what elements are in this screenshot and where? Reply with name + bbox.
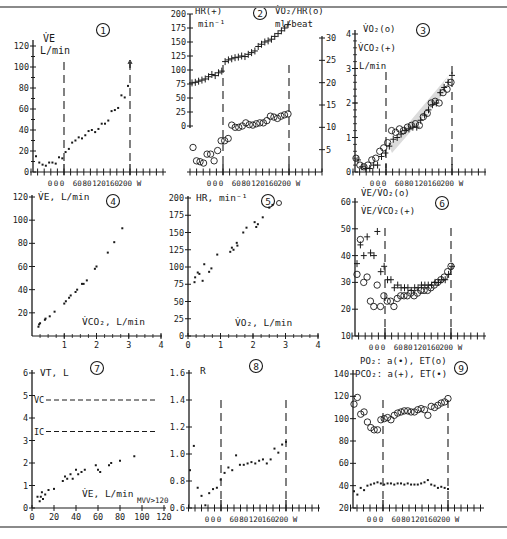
y-tick-label: 100 [13,215,28,225]
panel-5-hr-vo2: 025507510012515017520001234HR, min⁻¹V̇O₂… [169,192,321,350]
x-tick-label: 0 [29,512,34,522]
y-tick-label: 50 [174,297,184,307]
y-axis-unit: L/min [359,61,386,71]
x-tick-label: 120 [92,179,106,188]
x-tick-label: 120 [411,515,425,524]
y-tick-label: 80 [18,238,28,248]
x-tick-label: 0 [185,340,190,350]
panel-number: 7 [94,363,100,374]
y-tick-label-right: 15 [326,100,336,110]
y-tick-label: 75 [174,279,184,289]
y-tick-label: 1.6 [170,368,185,378]
x-tick-label: 1 [218,340,223,350]
panel-number: 2 [257,8,263,19]
x-tick-label: 200 [275,515,289,524]
y-tick-label: 20 [18,308,28,318]
x-tick-label: 0 [367,515,372,524]
x-tick-label: 120 [249,515,263,524]
y-tick-label: 125 [169,245,184,255]
x-tick-label: W [458,343,463,352]
y-tick-label: 10 [341,331,351,341]
panel-8-respiratory-exchange-ratio: 0.60.81.01.21.41.60006080120160200WR8 [170,360,320,525]
x-tick-label: 60 [229,515,239,524]
x-tick-label: 160 [264,179,278,188]
y-tick-label: 4 [346,29,351,39]
x-tick-label: 2 [250,340,255,350]
y-tick-label-right: 5 [326,145,331,155]
y-axis-unit-right: ml/beat [275,19,313,29]
panel-number: 9 [458,363,464,374]
x-tick-label: 0 [370,179,375,188]
panel-number: 6 [439,198,445,209]
y-tick-label: 120 [334,391,349,401]
y-tick-label: 75 [176,79,186,89]
x-tick-label: 60 [232,179,242,188]
y-axis-title: V̇E, L/min [38,191,89,202]
y-tick-label: 60 [341,197,351,207]
x-tick-label: 200 [441,179,455,188]
y-tick-label: 60 [18,262,28,272]
y-tick-label: 2 [346,98,351,108]
x-tick-label: 160 [105,179,119,188]
mvv-annotation: MVV>120 [137,496,169,505]
x-tick-label: W [137,179,142,188]
y-tick-label: 3 [23,436,28,446]
x-tick-label: 0 [211,515,216,524]
x-tick-label: 20 [49,512,59,522]
x-tick-label: 0 [379,515,384,524]
x-tick-label: 80 [239,515,249,524]
x-tick-label: 80 [115,512,125,522]
x-tick-label: 120 [156,512,171,522]
y-tick-label: 50 [176,93,186,103]
x-tick-label: 0 [213,179,218,188]
x-tick-label: 60 [73,179,83,188]
y-tick-label-right: 30 [326,33,336,43]
y-tick-label: 50 [341,224,351,234]
x-tick-label: 0 [381,343,386,352]
x-tick-label: 0 [205,515,210,524]
panel-number: 4 [110,196,116,207]
y-tick-label: 20 [19,146,29,156]
y-tick-label: 2 [23,458,28,468]
bottom-rule [0,526,507,528]
y-tick-label: 125 [171,51,186,61]
x-tick-label: 200 [437,515,451,524]
x-tick-label: 0 [60,179,65,188]
y-tick-label: 100 [171,65,186,75]
figure: 0204060801001200006080120160200WV̇EL/min… [0,0,507,539]
y-tick-label: 1 [346,133,351,143]
x-tick-label: 200 [278,179,292,188]
y-axis-title: V̇E [43,32,55,44]
y-tick-label: 200 [171,9,186,19]
y-tick-label: 1.0 [170,449,185,459]
x-tick-label: 60 [394,343,404,352]
x-tick-label: 0 [373,515,378,524]
x-tick-label: 0 [382,179,387,188]
y-tick-label: 100 [334,414,349,424]
x-axis-title: V̇O₂, L/min [235,317,292,328]
y-tick-label: 120 [13,192,28,202]
x-axis-title: V̇E, L/min [82,488,133,499]
y-tick-label: 5 [23,391,28,401]
y-tick-label: 175 [169,210,184,220]
y-tick-label: 4 [23,413,28,423]
y-tick-label: 200 [169,193,184,203]
panel-6-ventilatory-equivalents: 1020304050600006080120160200WV̇E/V̇O₂(o)… [341,187,486,352]
y-tick-label: 175 [171,23,186,33]
y-axis-title-1: PO₂: a(•), ET(o) [360,356,447,366]
x-tick-label: 0 [369,343,374,352]
x-tick-label: 1 [62,340,67,350]
x-tick-label: 200 [440,343,454,352]
y-tick-label: 60 [19,104,29,114]
x-tick-label: 0 [54,179,59,188]
x-tick-label: 40 [71,512,81,522]
x-tick-label: 3 [283,340,288,350]
y-axis-title-1: V̇E/V̇O₂(o) [361,187,410,198]
y-tick-label: 20 [339,503,349,513]
x-tick-label: 4 [315,340,320,350]
x-tick-label: 80 [242,179,252,188]
hline-label-vc: VC [34,395,44,405]
x-tick-label: W [293,515,298,524]
x-tick-label: 0 [207,179,212,188]
y-tick-label-right: 25 [326,55,336,65]
